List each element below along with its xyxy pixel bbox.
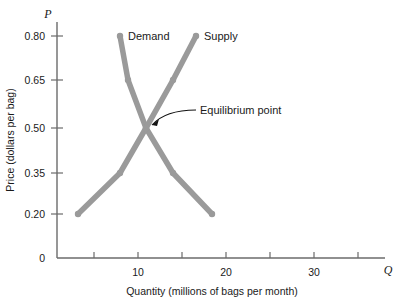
supply-point-5	[193, 33, 199, 39]
demand-point-1	[117, 33, 123, 39]
demand-point-2	[125, 77, 131, 83]
demand-curve	[120, 36, 212, 214]
demand-point-4	[170, 170, 176, 176]
demand-point-5	[209, 211, 215, 217]
supply-demand-chart: 0.80 0.65 0.50 0.35 0.20 0 10 20 30 P Q …	[0, 0, 397, 302]
equilibrium-annotation-label: Equilibrium point	[200, 104, 281, 116]
y-tick-label-065: 0.65	[25, 74, 46, 86]
x-tick-label-20: 20	[220, 266, 232, 278]
demand-series-label: Demand	[128, 30, 170, 42]
x-tick-label-30: 30	[308, 266, 320, 278]
y-axis-symbol: P	[43, 7, 52, 21]
y-tick-label-035: 0.35	[25, 167, 46, 179]
x-axis-symbol: Q	[384, 263, 393, 277]
x-axis-title: Quantity (millions of bags per month)	[126, 285, 298, 297]
supply-series-label: Supply	[204, 30, 238, 42]
supply-point-2	[117, 170, 123, 176]
supply-point-4	[170, 77, 176, 83]
supply-point-1	[75, 211, 81, 217]
equilibrium-leader-line	[152, 110, 196, 125]
chart-canvas: 0.80 0.65 0.50 0.35 0.20 0 10 20 30 P Q …	[0, 0, 397, 302]
x-tick-label-10: 10	[132, 266, 144, 278]
y-tick-label-080: 0.80	[25, 30, 46, 42]
y-tick-label-000: 0	[39, 252, 45, 264]
y-tick-label-020: 0.20	[25, 208, 46, 220]
supply-curve	[78, 36, 196, 214]
y-tick-label-050: 0.50	[25, 122, 46, 134]
supply-point-3	[143, 125, 149, 131]
y-axis-title: Price (dollars per bag)	[4, 88, 16, 191]
